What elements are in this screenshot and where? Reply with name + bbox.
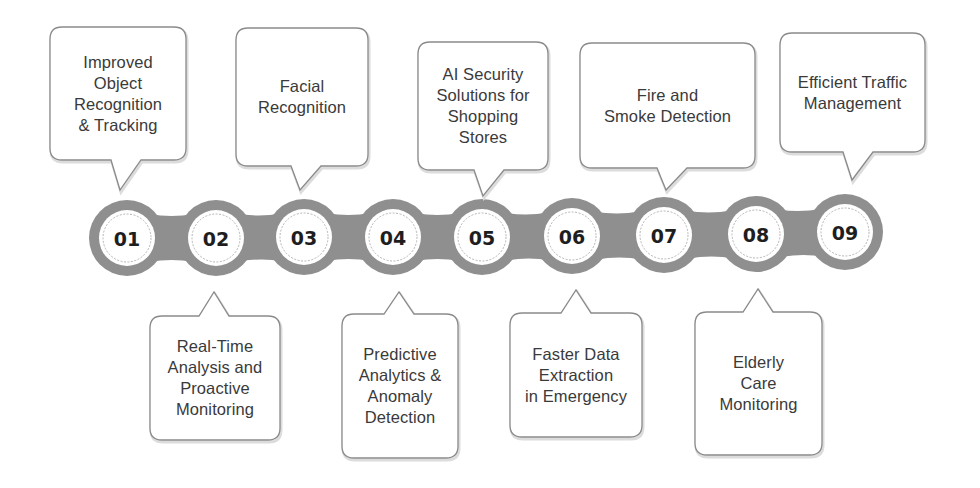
callout-label: AI Security Solutions for Shopping Store… [418,42,548,170]
node-number: 09 [815,213,875,253]
callout-label: Faster Data Extraction in Emergency [510,313,642,437]
callout-label: Predictive Analytics & Anomaly Detection [342,314,458,458]
callout-label: Real-Time Analysis and Proactive Monitor… [150,316,280,440]
timeline-diagram: 01Improved Object Recognition & Tracking… [0,0,980,488]
node-number: 04 [363,218,423,258]
node-number: 07 [634,216,694,256]
callout-label: Improved Object Recognition & Tracking [50,27,186,160]
node-number: 08 [726,215,786,255]
callout-label: Elderly Care Monitoring [695,312,822,455]
node-number: 05 [452,218,512,258]
callout-label: Efficient Traffic Management [780,33,925,152]
node-number: 06 [542,217,602,257]
node-number: 01 [97,219,157,259]
node-number: 03 [274,218,334,258]
node-number: 02 [186,219,246,259]
callout-label: Fire and Smoke Detection [580,43,755,168]
callout-label: Facial Recognition [236,28,368,166]
